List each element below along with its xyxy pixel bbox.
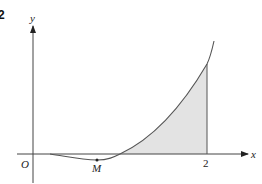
x-tick-label-2: 2 xyxy=(203,157,209,169)
graph: 2 y x O M 2 xyxy=(0,0,262,184)
x-axis-label: x xyxy=(250,148,256,160)
origin-label: O xyxy=(21,158,29,170)
minimum-label: M xyxy=(91,162,102,174)
y-axis-label: y xyxy=(29,12,35,24)
question-number: 2 xyxy=(0,8,5,22)
shaded-region xyxy=(120,64,207,154)
